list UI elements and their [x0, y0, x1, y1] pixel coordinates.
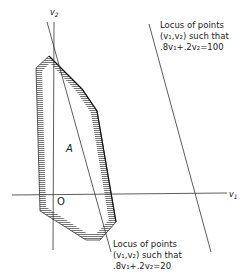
v1-axis-label: v1 — [229, 189, 238, 200]
origin-label: O — [57, 196, 65, 207]
annotation-line: Locus of points — [160, 20, 229, 31]
annotation-locus-20: Locus of points (v₁,v₂) such that .8v₁+.… — [113, 239, 182, 272]
annotation-line: Locus of points — [113, 239, 182, 250]
annotation-locus-100: Locus of points (v₁,v₂) such that .8v₁+.… — [160, 20, 229, 53]
annotation-line: .8v₁+.2v₂=100 — [160, 42, 229, 53]
v2-axis-label: v2 — [50, 7, 59, 18]
annotation-line: (v₁,v₂) such that — [113, 250, 182, 261]
annotation-line: (v₁,v₂) such that — [160, 31, 229, 42]
region-label: A — [66, 143, 73, 154]
annotation-line: .8v₁+.2v₂=20 — [113, 261, 182, 272]
locus-line-100 — [149, 24, 211, 252]
